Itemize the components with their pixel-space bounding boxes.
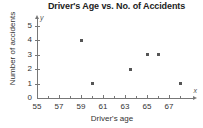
x-axis-arrow-icon: [193, 96, 197, 100]
x-axis-letter: x: [194, 87, 198, 94]
x-tick: [180, 96, 181, 99]
data-point: [129, 68, 132, 71]
x-tick: [81, 95, 82, 99]
y-tick-label: 5: [22, 21, 32, 30]
x-tick-label: 65: [139, 102, 155, 111]
y-tick: [35, 40, 40, 41]
x-tick-label: 59: [73, 102, 89, 111]
data-point: [157, 53, 160, 56]
y-tick: [35, 69, 40, 70]
x-tick: [103, 95, 104, 99]
x-tick: [136, 96, 137, 99]
x-tick-label: 61: [95, 102, 111, 111]
x-tick: [37, 95, 38, 99]
y-axis-arrow-icon: [35, 15, 39, 19]
y-tick-label: 1: [22, 79, 32, 88]
data-point: [91, 82, 94, 85]
x-tick-label: 57: [51, 102, 67, 111]
plot-area: xy01234555575961636567: [0, 0, 203, 128]
x-tick-label: 55: [29, 102, 45, 111]
y-tick: [35, 26, 40, 27]
x-tick-label: 63: [117, 102, 133, 111]
x-tick: [158, 96, 159, 99]
x-tick: [59, 95, 60, 99]
x-tick: [114, 96, 115, 99]
y-axis-letter: y: [40, 14, 44, 21]
data-point: [80, 39, 83, 42]
y-tick-label: 3: [22, 50, 32, 59]
x-tick: [147, 95, 148, 99]
x-axis-line: [37, 98, 194, 99]
y-tick: [35, 55, 40, 56]
y-tick: [35, 84, 40, 85]
y-tick-label: 0: [22, 93, 32, 102]
x-tick: [92, 96, 93, 99]
y-tick-label: 2: [22, 64, 32, 73]
x-tick-label: 67: [161, 102, 177, 111]
x-tick: [70, 96, 71, 99]
x-tick: [169, 95, 170, 99]
y-tick-label: 4: [22, 35, 32, 44]
scatter-chart: Driver's Age vs. No. of Accidents Number…: [0, 0, 203, 128]
data-point: [179, 82, 182, 85]
y-axis-line: [37, 19, 38, 99]
data-point: [146, 53, 149, 56]
x-tick: [125, 95, 126, 99]
x-tick: [48, 96, 49, 99]
